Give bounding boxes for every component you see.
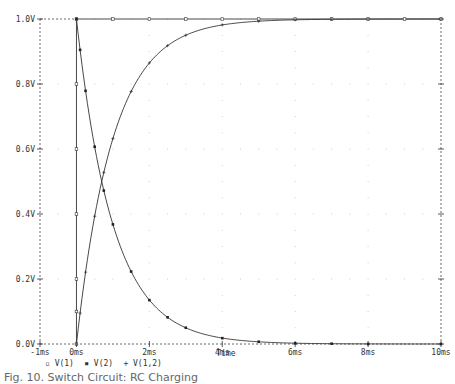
marker-v12: [221, 23, 224, 26]
marker-v2: [112, 223, 115, 226]
marker-v12: [93, 215, 96, 218]
plot-frame: [40, 19, 441, 344]
legend-item: ▪ V(2): [84, 359, 113, 368]
series-lines: [76, 19, 441, 344]
marker-v1: [75, 83, 78, 86]
legend-item: + V(1,2): [123, 359, 162, 368]
figure-caption: Fig. 10. Switch Circuit: RC Charging: [4, 372, 198, 384]
marker-v2: [148, 299, 151, 302]
marker-v2: [221, 337, 224, 340]
marker-v2: [75, 18, 78, 21]
marker-v1: [75, 310, 78, 313]
marker-v1: [75, 213, 78, 216]
marker-v12: [111, 137, 114, 140]
marker-v2: [294, 342, 297, 345]
x-tick-label: 10ms: [431, 348, 450, 357]
marker-v2: [93, 145, 96, 148]
marker-v12: [79, 312, 82, 315]
y-tick-label: 0.8V: [16, 80, 35, 89]
marker-v1: [75, 278, 78, 281]
y-tick-label: 0.4V: [16, 210, 35, 219]
marker-v2: [166, 316, 169, 319]
marker-v1: [75, 148, 78, 151]
marker-v2: [84, 90, 87, 93]
grid-dots: [39, 18, 441, 344]
x-tick-label: -1ms: [30, 348, 49, 357]
x-tick-label: 2ms: [142, 348, 157, 357]
marker-v12: [84, 271, 87, 274]
x-tick-label: 0ms: [69, 348, 84, 357]
marker-v1: [112, 18, 115, 21]
series-v1-line: [76, 19, 441, 344]
x-tick-label: 8ms: [361, 348, 376, 357]
series-v2-line: [76, 19, 441, 344]
series-v12-line: [76, 19, 441, 344]
legend: ▫ V(1)▪ V(2)+ V(1,2): [45, 359, 162, 368]
legend-item: ▫ V(1): [45, 359, 74, 368]
marker-v2: [130, 270, 133, 273]
series-markers: [75, 17, 443, 345]
marker-v1: [221, 18, 224, 21]
marker-v12: [102, 171, 105, 174]
marker-v12: [130, 90, 133, 93]
marker-v2: [79, 49, 82, 52]
marker-v2: [367, 343, 370, 346]
y-axis: 0.0V0.2V0.4V0.6V0.8V1.0V: [16, 15, 444, 349]
marker-v12: [184, 34, 187, 37]
x-axis-title: Time: [216, 349, 235, 358]
marker-v2: [330, 342, 333, 345]
x-axis: -1ms0ms2ms4ms6ms8ms10ms: [30, 341, 450, 357]
marker-v1: [403, 18, 406, 21]
x-tick-label: 6ms: [288, 348, 303, 357]
marker-v2: [257, 340, 260, 343]
marker-v2: [185, 326, 188, 329]
marker-v1: [185, 18, 188, 21]
marker-v2: [102, 189, 105, 192]
y-tick-label: 0.2V: [16, 275, 35, 284]
y-tick-label: 1.0V: [16, 15, 35, 24]
marker-v2: [440, 343, 443, 346]
y-tick-label: 0.6V: [16, 145, 35, 154]
marker-v1: [148, 18, 151, 21]
